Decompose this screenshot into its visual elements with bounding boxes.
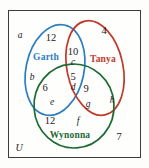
count-tanya-only: 4 [101, 26, 106, 37]
region-letter-b: b [30, 73, 35, 83]
set-label-wynonna: Wynonna [50, 131, 91, 141]
venn-diagram-figure: Garth Tanya Wynonna 12 4 12 10 6 9 5 7 a… [0, 0, 149, 168]
region-letter-a: a [18, 31, 23, 41]
set-label-garth: Garth [33, 53, 59, 63]
region-letter-d: d [71, 83, 76, 93]
count-tanya-wynonna: 9 [83, 84, 88, 95]
count-garth-wynonna: 6 [42, 83, 47, 94]
universe-label: U [15, 143, 22, 153]
region-letter-h: h [110, 96, 115, 106]
set-label-tanya: Tanya [90, 55, 116, 65]
count-wynonna-only: 12 [45, 116, 56, 127]
count-garth-only: 12 [46, 33, 57, 44]
region-letter-e: e [50, 98, 54, 108]
region-letter-c: c [71, 58, 75, 68]
count-outside-all: 7 [116, 132, 121, 143]
count-garth-tanya: 10 [68, 47, 79, 58]
count-all-three: 5 [70, 72, 75, 83]
region-letter-f: f [77, 117, 80, 127]
region-letter-g: g [86, 100, 91, 110]
